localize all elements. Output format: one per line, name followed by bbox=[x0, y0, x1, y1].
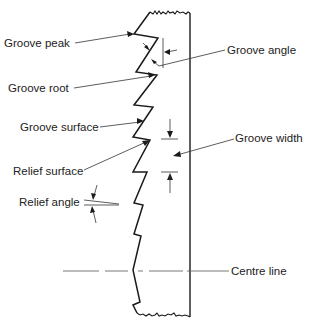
relief-angle-dimension bbox=[84, 185, 119, 223]
label-groove-root: Groove root bbox=[8, 82, 70, 94]
relief-surface-callout bbox=[84, 140, 150, 170]
label-groove-angle: Groove angle bbox=[227, 44, 296, 56]
label-groove-peak: Groove peak bbox=[4, 37, 70, 49]
groove-profile-diagram: Groove peak Groove root Groove surface R… bbox=[0, 0, 314, 327]
label-relief-surface: Relief surface bbox=[13, 165, 83, 177]
serrated-profile bbox=[133, 12, 158, 313]
groove-width-dimension bbox=[161, 119, 234, 193]
label-relief-angle: Relief angle bbox=[19, 196, 80, 208]
groove-peak-callout bbox=[75, 31, 134, 43]
label-groove-width: Groove width bbox=[235, 132, 303, 144]
groove-surface-callout bbox=[100, 118, 144, 127]
groove-root-callout bbox=[74, 72, 155, 88]
bottom-break-line bbox=[137, 313, 190, 317]
label-centre-line: Centre line bbox=[231, 265, 287, 277]
top-break-line bbox=[150, 11, 190, 14]
label-groove-surface: Groove surface bbox=[20, 121, 99, 133]
